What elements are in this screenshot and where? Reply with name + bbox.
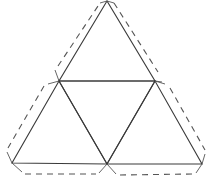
tab-bottom-right [107,164,202,175]
tab-end-stroke [99,164,107,173]
tab-bottom-left [12,163,107,174]
tab-lower-left [7,81,59,163]
tetrahedron-net-diagram [0,0,213,190]
center-face [59,81,155,164]
tab-end-stroke [12,163,22,172]
dashed-tab-edge [114,3,158,72]
tab-end-stroke [107,164,116,174]
tab-end-stroke [55,70,59,81]
dashed-tab-edge [120,174,192,175]
fold-lines [12,1,202,164]
tab-top-right [107,1,162,82]
right-face [107,81,202,164]
dashed-tab-edge [170,88,205,150]
tab-end-stroke [196,164,202,173]
left-face [12,81,107,164]
glue-tabs [7,1,205,175]
tab-end-stroke [202,154,205,164]
tab-end-stroke [7,152,12,163]
top-face [59,1,155,81]
dashed-tab-edge [58,3,100,66]
